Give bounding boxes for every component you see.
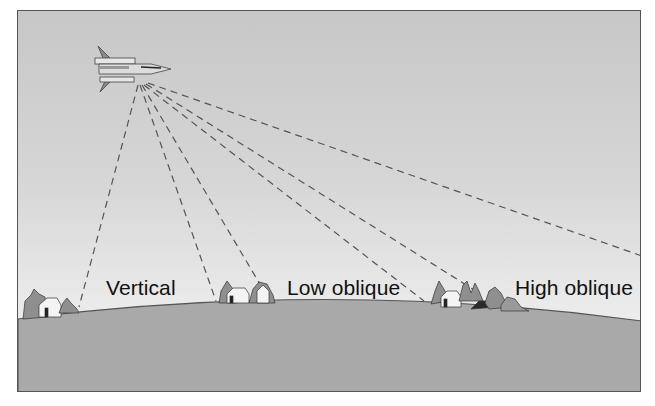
houses-low-oblique-target — [219, 281, 275, 303]
label-vertical: Vertical — [106, 276, 176, 300]
label-low-oblique: Low oblique — [287, 276, 400, 300]
jet-aircraft-icon — [95, 46, 171, 92]
ground — [18, 299, 641, 392]
diagram-frame: Vertical Low oblique High oblique — [17, 10, 641, 392]
diagram-canvas — [18, 11, 641, 392]
label-high-oblique: High oblique — [515, 276, 633, 300]
sight-lines — [79, 83, 641, 307]
